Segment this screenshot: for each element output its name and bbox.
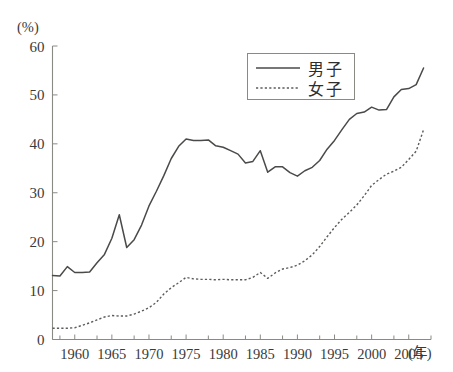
x-tick-label: 1960 <box>60 346 89 362</box>
y-tick-label: 0 <box>37 332 45 348</box>
y-tick-label: 60 <box>30 39 45 55</box>
series-line-female <box>53 130 424 329</box>
x-tick-label: 1980 <box>209 346 238 362</box>
legend-label-female: 女子 <box>308 80 344 98</box>
x-axis-unit-label: (年) <box>408 345 432 362</box>
x-axis-tick-labels: 1960196519701975198019851990199520002005 <box>60 346 423 362</box>
y-tick-label: 40 <box>30 136 45 152</box>
x-tick-label: 1990 <box>283 346 312 362</box>
line-chart: (%) 0102030405060 1960196519701975198019… <box>0 0 453 372</box>
legend: 男子 女子 <box>248 54 355 100</box>
chart-container: (%) 0102030405060 1960196519701975198019… <box>0 0 453 372</box>
series-line-male <box>53 68 424 276</box>
y-tick-label: 20 <box>30 234 45 250</box>
x-tick-label: 1975 <box>172 346 201 362</box>
y-tick-label: 30 <box>30 185 45 201</box>
x-axis-ticks <box>60 335 431 340</box>
y-axis-tick-labels: 0102030405060 <box>30 39 45 349</box>
x-tick-label: 1995 <box>320 346 349 362</box>
y-axis-unit-label: (%) <box>17 19 39 36</box>
y-axis-ticks <box>53 46 58 340</box>
legend-label-male: 男子 <box>308 61 344 78</box>
x-tick-label: 1970 <box>134 346 163 362</box>
x-tick-label: 2000 <box>357 346 386 362</box>
y-tick-label: 10 <box>30 283 45 299</box>
x-tick-label: 1985 <box>246 346 275 362</box>
x-tick-label: 1965 <box>97 346 126 362</box>
y-tick-label: 50 <box>30 87 45 103</box>
